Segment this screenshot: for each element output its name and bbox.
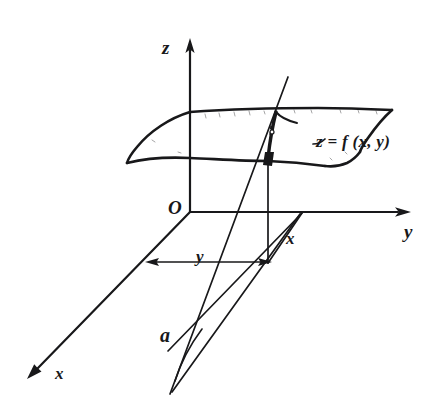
oblique-line-primary-path (170, 77, 288, 394)
base-plane-x-parallel-line (168, 213, 302, 351)
figure-root: z y x x O y a z = f (x, y) (0, 0, 431, 405)
surface-equation-label: z = f (x, y) (316, 133, 390, 150)
oblique-line-primary (170, 77, 288, 394)
surface-intersection-wedge (276, 112, 297, 123)
base-plane-corner-edge (268, 213, 302, 263)
surface-left-edge (127, 112, 190, 163)
oblique-line-secondary-path (172, 214, 300, 392)
surface-pierce-point-marker (270, 130, 274, 134)
oblique-line-secondary (172, 214, 300, 392)
x-axis (27, 212, 190, 379)
surface-back-edge (190, 108, 392, 112)
surface-front-edge (127, 158, 325, 166)
y-dimension-label: y (196, 248, 204, 265)
y-dimension-arrow (145, 258, 272, 266)
z-axis-label: z (162, 38, 169, 57)
angle-alpha-label: a (160, 325, 170, 345)
coordinate-system-diagram (0, 0, 431, 405)
y-axis-label: y (404, 222, 412, 241)
surface-intersection-foot-blob (263, 152, 274, 166)
x-axis-far-label: x (55, 365, 64, 382)
base-plane-construction (168, 213, 302, 351)
origin-label: O (168, 198, 182, 217)
surface-front-edge-right (325, 152, 360, 166)
x-axis-near-label: x (286, 230, 295, 247)
